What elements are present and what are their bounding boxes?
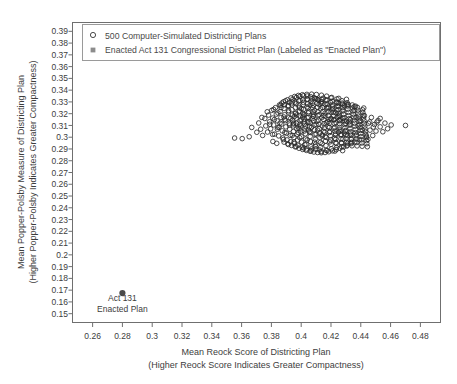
y-tick-label: 0.36 <box>51 62 68 72</box>
x-tick-label: 0.28 <box>114 331 131 341</box>
legend-label-simulated: 500 Computer-Simulated Districting Plans <box>105 31 267 41</box>
y-tick-label: 0.24 <box>51 203 68 213</box>
x-tick-label: 0.48 <box>412 331 429 341</box>
enacted-plan-label-line1: Act 131 <box>108 293 137 303</box>
legend-entry-enacted: Enacted Act 131 Congressional District P… <box>91 45 386 55</box>
y-tick-label: 0.26 <box>51 179 68 189</box>
y-tick-label: 0.25 <box>51 191 68 201</box>
scatter-plot-figure: 0.150.160.170.180.190.20.210.220.230.240… <box>0 0 457 384</box>
x-tick-label: 0.3 <box>146 331 158 341</box>
y-tick-label: 0.34 <box>51 85 68 95</box>
y-tick-label: 0.33 <box>51 97 68 107</box>
y-tick-label: 0.38 <box>51 38 68 48</box>
x-tick-label: 0.38 <box>263 331 280 341</box>
figure-background <box>0 0 457 384</box>
y-tick-label: 0.32 <box>51 109 68 119</box>
y-tick-label: 0.35 <box>51 73 68 83</box>
x-tick-label: 0.32 <box>174 331 191 341</box>
y-tick-label: 0.15 <box>51 309 68 319</box>
x-tick-label: 0.46 <box>382 331 399 341</box>
x-tick-label: 0.44 <box>353 331 370 341</box>
y-tick-label: 0.39 <box>51 26 68 36</box>
y-tick-label: 0.31 <box>51 121 68 131</box>
y-tick-label: 0.16 <box>51 297 68 307</box>
legend-asterisk-dot-icon <box>91 48 96 53</box>
y-axis-subtitle: (Higher Popper-Polsby Indicates Greater … <box>28 60 38 283</box>
x-tick-label: 0.36 <box>233 331 250 341</box>
y-tick-label: 0.21 <box>51 238 68 248</box>
y-tick-label: 0.22 <box>51 226 68 236</box>
x-tick-label: 0.34 <box>204 331 221 341</box>
x-tick-label: 0.42 <box>323 331 340 341</box>
x-tick-label: 0.26 <box>84 331 101 341</box>
y-tick-label: 0.27 <box>51 168 68 178</box>
enacted-plan-label-line2: Enacted Plan <box>97 304 148 314</box>
legend-entry-simulated: 500 Computer-Simulated Districting Plans <box>90 31 267 41</box>
x-axis-title: Mean Reock Score of Districting Plan <box>181 347 330 357</box>
y-tick-label: 0.3 <box>56 132 68 142</box>
y-axis-title: Mean Popper-Polsby Measure of Districtin… <box>16 75 26 269</box>
x-axis-subtitle: (Higher Reock Score Indicates Greater Co… <box>148 360 364 370</box>
legend-label-enacted: Enacted Act 131 Congressional District P… <box>105 45 386 55</box>
y-tick-label: 0.28 <box>51 156 68 166</box>
y-tick-label: 0.29 <box>51 144 68 154</box>
y-axis-tick-labels: 0.150.160.170.180.190.20.210.220.230.240… <box>51 26 68 318</box>
x-tick-label: 0.4 <box>295 331 307 341</box>
y-tick-label: 0.19 <box>51 262 68 272</box>
y-tick-label: 0.23 <box>51 215 68 225</box>
y-tick-label: 0.2 <box>56 250 68 260</box>
y-tick-label: 0.37 <box>51 50 68 60</box>
y-tick-label: 0.17 <box>51 285 68 295</box>
y-tick-label: 0.18 <box>51 273 68 283</box>
